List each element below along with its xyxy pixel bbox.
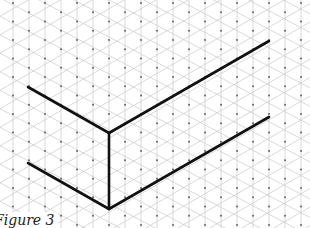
grid-dot — [300, 39, 302, 41]
grid-dot — [140, 21, 142, 23]
grid-dot — [220, 196, 222, 198]
grid-dot — [172, 169, 174, 171]
grid-dot — [220, 104, 222, 106]
grid-dot — [108, 113, 110, 115]
grid-dot — [28, 196, 30, 198]
grid-dot — [140, 150, 142, 152]
grid-dot — [124, 11, 126, 13]
grid-dot — [12, 113, 14, 115]
grid-dot — [92, 215, 94, 217]
grid-dot — [60, 196, 62, 198]
grid-dot — [300, 76, 302, 78]
grid-dot — [28, 104, 30, 106]
grid-dot — [284, 67, 286, 69]
grid-dot — [76, 21, 78, 23]
grid-dot — [92, 159, 94, 161]
grid-dot — [92, 30, 94, 32]
grid-dot — [76, 150, 78, 152]
grid-dot — [124, 85, 126, 87]
grid-dot — [188, 122, 190, 124]
grid-dot — [156, 159, 158, 161]
grid-dot — [124, 141, 126, 143]
grid-dot — [204, 95, 206, 97]
grid-dot — [172, 132, 174, 134]
grid-dot — [300, 95, 302, 97]
grid-dot — [204, 2, 206, 4]
grid-dot — [204, 58, 206, 60]
grid-dot — [204, 150, 206, 152]
grid-dot — [172, 206, 174, 208]
grid-dot — [92, 196, 94, 198]
grid-dot — [188, 159, 190, 161]
grid-dot — [188, 30, 190, 32]
grid-dot — [108, 76, 110, 78]
grid-dot — [124, 30, 126, 32]
grid-dot — [284, 85, 286, 87]
grid-dot — [284, 104, 286, 106]
grid-dot — [204, 113, 206, 115]
grid-dot — [188, 11, 190, 13]
grid-dot — [44, 113, 46, 115]
isometric-grid — [0, 0, 310, 228]
grid-dot — [44, 150, 46, 152]
grid-dot — [124, 67, 126, 69]
grid-line-diagonal-up — [0, 0, 310, 35]
grid-dot — [172, 224, 174, 226]
grid-dot — [92, 141, 94, 143]
grid-dot — [44, 132, 46, 134]
box-edge-drawing — [28, 41, 269, 209]
grid-dot — [300, 21, 302, 23]
grid-line-diagonal-up — [0, 96, 310, 228]
grid-dot — [60, 11, 62, 13]
grid-dot — [284, 11, 286, 13]
grid-dot — [44, 76, 46, 78]
grid-dot — [140, 95, 142, 97]
grid-dot — [188, 196, 190, 198]
grid-dot — [284, 48, 286, 50]
grid-dot — [12, 132, 14, 134]
grid-dot — [220, 122, 222, 124]
grid-dot — [12, 21, 14, 23]
grid-dot — [236, 224, 238, 226]
grid-dot — [44, 187, 46, 189]
grid-dot — [236, 150, 238, 152]
grid-dot — [140, 224, 142, 226]
grid-dot — [220, 30, 222, 32]
grid-dot — [188, 67, 190, 69]
grid-dot — [236, 132, 238, 134]
grid-dot — [28, 48, 30, 50]
grid-dot — [140, 169, 142, 171]
grid-dot — [268, 113, 270, 115]
grid-dot — [252, 85, 254, 87]
grid-dot — [220, 178, 222, 180]
grid-dot — [204, 169, 206, 171]
grid-dot — [268, 187, 270, 189]
grid-dot — [236, 187, 238, 189]
grid-dot — [60, 122, 62, 124]
grid-dot — [60, 159, 62, 161]
lower-left-edge — [28, 163, 109, 209]
grid-dot — [12, 39, 14, 41]
grid-dot — [220, 85, 222, 87]
grid-dot — [236, 169, 238, 171]
grid-dot — [140, 187, 142, 189]
grid-dot — [204, 224, 206, 226]
grid-dot — [236, 39, 238, 41]
grid-dot — [124, 215, 126, 217]
grid-dot — [252, 67, 254, 69]
grid-dot — [60, 141, 62, 143]
grid-dot — [156, 11, 158, 13]
grid-dot — [156, 178, 158, 180]
grid-dot — [300, 113, 302, 115]
grid-dot — [12, 2, 14, 4]
grid-dot — [284, 141, 286, 143]
grid-dot — [268, 224, 270, 226]
grid-dot — [284, 159, 286, 161]
grid-dot — [252, 30, 254, 32]
grid-dot — [252, 159, 254, 161]
grid-dot — [156, 196, 158, 198]
grid-dot — [108, 39, 110, 41]
grid-dot — [76, 206, 78, 208]
grid-dot — [268, 150, 270, 152]
grid-dot — [140, 206, 142, 208]
